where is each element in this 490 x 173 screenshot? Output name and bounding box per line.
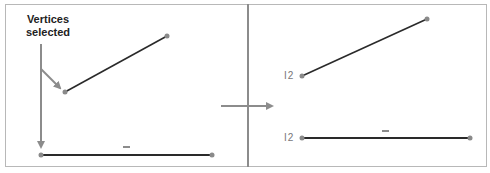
caption-line-2: selected bbox=[20, 26, 76, 39]
vertex-selected bbox=[63, 90, 68, 95]
constraint-label-bottom: I2 bbox=[284, 132, 294, 143]
right-diagonal-segment bbox=[302, 19, 427, 76]
diagram-canvas: Vertices selected I2 I2 bbox=[0, 0, 490, 173]
vertex bbox=[468, 136, 473, 141]
vertex bbox=[300, 74, 305, 79]
caption-line-1: Vertices bbox=[20, 13, 76, 26]
vertex-selected bbox=[39, 153, 44, 158]
left-diagonal-segment bbox=[65, 36, 167, 92]
vertex bbox=[210, 153, 215, 158]
vertex bbox=[425, 17, 430, 22]
constraint-label-top: I2 bbox=[284, 70, 294, 81]
vertices-selected-caption: Vertices selected bbox=[20, 13, 76, 39]
vertex bbox=[165, 34, 170, 39]
vertex bbox=[300, 136, 305, 141]
callout-arrow-branch bbox=[41, 69, 60, 88]
